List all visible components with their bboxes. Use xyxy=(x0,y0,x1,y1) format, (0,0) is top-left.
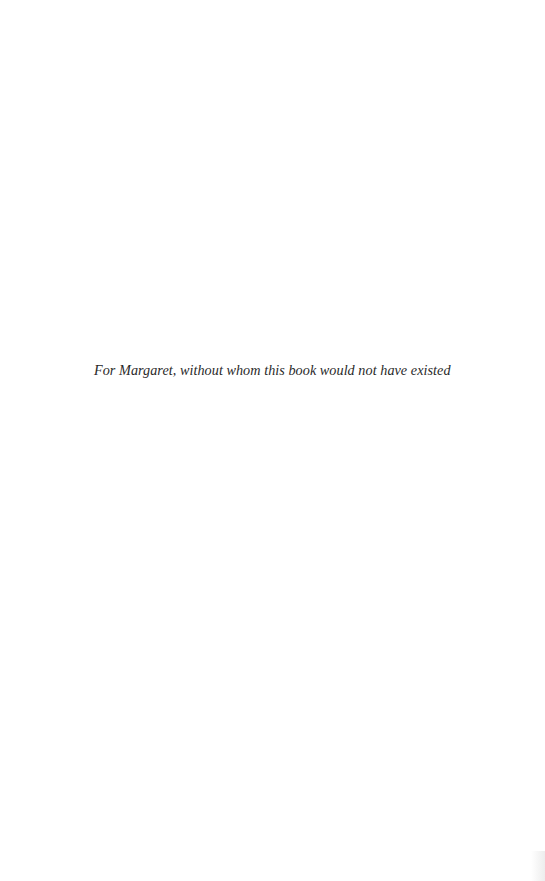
page-corner-shadow xyxy=(531,851,545,881)
dedication-text: For Margaret, without whom this book wou… xyxy=(94,360,451,380)
book-page: For Margaret, without whom this book wou… xyxy=(0,0,545,881)
